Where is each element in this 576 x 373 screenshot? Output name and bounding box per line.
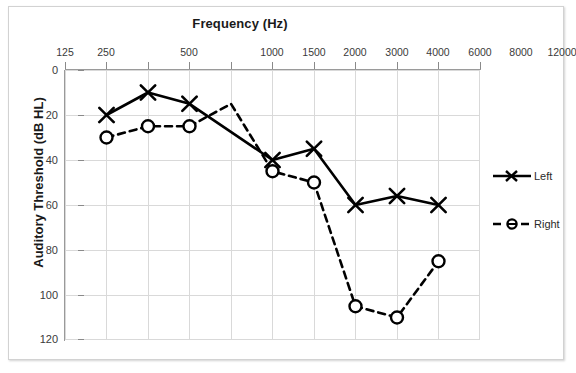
gridline-vertical — [314, 70, 315, 340]
y-tick-mark — [78, 70, 84, 71]
x-tick-mark — [272, 62, 273, 69]
chart-title: Frequency (Hz) — [0, 16, 480, 31]
x-tick-label-500: 500 — [180, 46, 198, 58]
gridline-vertical — [272, 70, 273, 340]
legend-item-left[interactable]: Left — [492, 168, 568, 216]
y-tick-label-100: 100 — [40, 289, 58, 301]
gridline-vertical — [355, 70, 356, 340]
x-tick-label-250: 250 — [97, 46, 115, 58]
x-tick-mark — [397, 62, 398, 69]
y-tick-mark — [78, 115, 84, 116]
legend-marker-circle-icon — [492, 216, 532, 232]
chart-legend: Left Right — [492, 168, 568, 264]
x-tick-label-12000: 12000 — [547, 46, 576, 58]
y-tick-label-80: 80 — [46, 244, 58, 256]
x-tick-mark — [480, 62, 481, 69]
legend-marker-x-icon — [492, 168, 532, 184]
x-tick-mark — [231, 62, 232, 69]
y-tick-label-120: 120 — [40, 333, 58, 345]
gridline-vertical — [65, 70, 66, 340]
y-tick-label-60: 60 — [46, 199, 58, 211]
y-tick-mark — [78, 250, 84, 251]
x-tick-label-125: 125 — [56, 46, 74, 58]
gridline-vertical — [397, 70, 398, 340]
y-tick-mark — [78, 295, 84, 296]
x-tick-mark — [189, 62, 190, 69]
gridline-vertical — [106, 70, 107, 340]
gridline-vertical — [438, 70, 439, 340]
x-tick-label-3000: 3000 — [385, 46, 408, 58]
y-tick-label-0: 0 — [52, 64, 58, 76]
gridline-vertical — [231, 70, 232, 340]
x-tick-label-8000: 8000 — [509, 46, 532, 58]
x-tick-mark — [106, 62, 107, 69]
gridline-vertical — [189, 70, 190, 340]
legend-label-left: Left — [534, 170, 552, 182]
gridline-vertical — [479, 70, 480, 340]
y-tick-label-20: 20 — [46, 109, 58, 121]
x-tick-label-1000: 1000 — [260, 46, 283, 58]
x-tick-label-4000: 4000 — [426, 46, 449, 58]
x-tick-mark — [355, 62, 356, 69]
x-tick-mark — [65, 62, 66, 69]
y-tick-label-40: 40 — [46, 154, 58, 166]
y-axis-line — [64, 70, 65, 341]
y-axis-ticks: 0 20 40 60 80 100 120 — [18, 0, 58, 373]
x-tick-label-6000: 6000 — [468, 46, 491, 58]
x-tick-label-2000: 2000 — [343, 46, 366, 58]
y-tick-mark — [78, 160, 84, 161]
x-tick-mark — [438, 62, 439, 69]
y-tick-mark — [78, 205, 84, 206]
x-tick-mark — [148, 62, 149, 69]
gridline-vertical — [148, 70, 149, 340]
x-axis-line — [65, 69, 481, 70]
legend-item-right[interactable]: Right — [492, 216, 568, 264]
y-tick-mark — [78, 339, 84, 340]
audiogram-screenshot: Frequency (Hz) Auditory Threshold (dB HL… — [0, 0, 576, 373]
legend-label-right: Right — [534, 218, 560, 230]
plot-area — [65, 70, 480, 340]
x-tick-mark — [314, 62, 315, 69]
x-tick-label-1500: 1500 — [302, 46, 325, 58]
